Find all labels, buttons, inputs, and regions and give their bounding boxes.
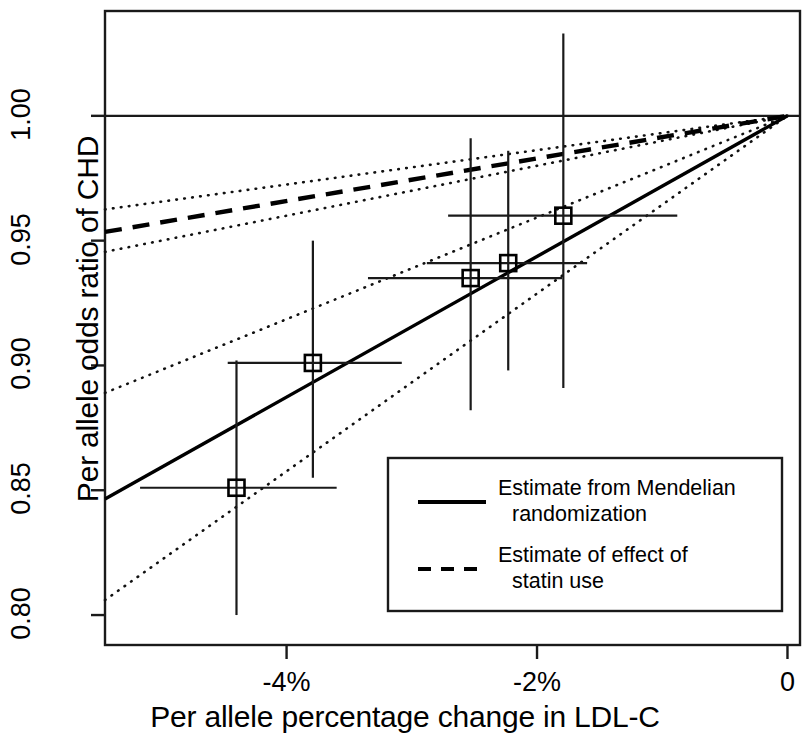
y-tick-label-3: 0.95 [6, 179, 37, 299]
legend-entry-0-line2: randomization [512, 502, 647, 527]
y-axis-label: Per allele odds ratio of CHD [71, 99, 105, 539]
y-tick-label-2: 0.90 [6, 304, 37, 424]
x-tick-label-0: -4% [217, 667, 357, 698]
x-axis-label: Per allele percentage change in LDL-C [0, 700, 810, 734]
y-tick-label-1: 0.85 [6, 429, 37, 549]
y-tick-label-4: 1.00 [6, 54, 37, 174]
x-tick-label-2: 0 [717, 667, 810, 698]
legend-entry-1-line1: Estimate of effect of [498, 543, 688, 568]
x-tick-label-1: -2% [467, 667, 607, 698]
legend-entry-0-line1: Estimate from Mendelian [498, 476, 736, 501]
y-tick-label-0: 0.80 [6, 554, 37, 674]
legend-entry-1-line2: statin use [512, 569, 604, 594]
